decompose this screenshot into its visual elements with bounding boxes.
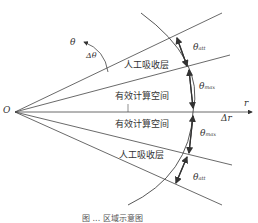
- r-axis-label: r: [244, 98, 248, 108]
- origin-label: O: [3, 105, 10, 115]
- angle-max-upper: θmax: [199, 81, 215, 91]
- region-absorb-lower: 人工吸收层: [119, 148, 164, 161]
- region-absorb-upper: 人工吸收层: [124, 58, 169, 71]
- region-compute-lower: 有效计算空间: [115, 117, 169, 130]
- theta-label: θ: [70, 37, 75, 47]
- angle-att-lower: θatt: [193, 172, 205, 182]
- region-compute-upper: 有效计算空间: [115, 89, 169, 102]
- delta-r-label: Δr: [221, 113, 232, 123]
- diagram-canvas: [0, 0, 258, 223]
- angle-att-upper: θatt: [193, 42, 205, 52]
- angle-max-lower: θmax: [200, 128, 216, 138]
- delta-theta-label: Δθ: [86, 51, 97, 60]
- figure-caption: 图 ... 区域示意图: [82, 212, 143, 223]
- boundary-line-upper-inner: [15, 55, 230, 112]
